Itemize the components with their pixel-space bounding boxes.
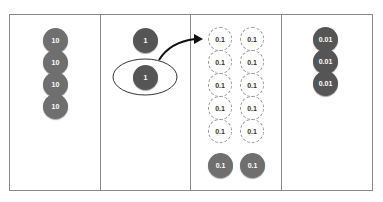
chip-tenth-dashed: 0.1 [208, 50, 232, 74]
chip-tenth-dashed: 0.1 [208, 27, 232, 51]
chip-tenth: 0.1 [208, 153, 233, 178]
chip-tenth-dashed: 0.1 [240, 96, 264, 120]
chip-hundredth: 0.01 [313, 71, 338, 96]
chip-tenth-dashed: 0.1 [208, 96, 232, 120]
chip-tenth-dashed: 0.1 [240, 27, 264, 51]
chip-tenth: 0.1 [240, 153, 265, 178]
chip-tenth-dashed: 0.1 [240, 50, 264, 74]
chip-tenth-dashed: 0.1 [208, 73, 232, 97]
chip-tenth-dashed: 0.1 [240, 119, 264, 143]
chip-tenth-dashed: 0.1 [208, 119, 232, 143]
regroup-arrow [159, 39, 195, 60]
arrow-head-icon [194, 34, 203, 44]
chip-tenth-dashed: 0.1 [240, 73, 264, 97]
circle-highlight [113, 59, 177, 95]
